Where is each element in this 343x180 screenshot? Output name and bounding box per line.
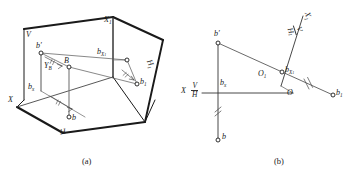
label-point-o-b: O: [287, 89, 293, 97]
label-axis-x-b: X: [181, 87, 186, 95]
point-b1-marker-b: [331, 93, 335, 97]
label-plane-h-a: H: [60, 128, 66, 136]
label-point-bx1-b: bX1: [285, 66, 294, 74]
label-axis-x1-a: X1: [104, 16, 111, 24]
point-b-marker-b: [216, 138, 220, 142]
h1-tick-marks: [123, 73, 128, 78]
h-arrow-head: [67, 107, 72, 111]
label-plane-v-a: V: [26, 31, 31, 39]
label-point-bx-b: bx: [220, 79, 226, 87]
yb-arrow-head: [58, 64, 63, 68]
inclined-tick-marks: [304, 77, 313, 89]
label-distance-yb-a: YB: [44, 62, 52, 70]
label-point-b1-a: b1: [140, 78, 147, 86]
label-point-b-prime-b: b′: [214, 30, 220, 38]
label-axis-x-a: X: [8, 96, 13, 104]
label-point-bx-a: bx: [28, 83, 34, 91]
point-b1-marker: [135, 82, 139, 86]
label-point-o1-b: O1: [258, 70, 266, 78]
label-fold-vh-b: V H: [191, 82, 198, 99]
h-plane-left-edge: [17, 107, 63, 133]
figure-container: V X1 X H H1 b′ B b b1 bx bX1 YB (a): [0, 0, 343, 180]
h-plane-bottom-edge: [63, 122, 145, 133]
point-B-marker: [67, 65, 71, 69]
bprime-to-bx1: [41, 53, 127, 60]
h1-plane-right-edge: [145, 40, 163, 122]
label-point-B-a: B: [64, 57, 69, 65]
h1-plane-top-edge: [113, 17, 163, 40]
point-bx1-marker-b: [280, 70, 284, 74]
label-point-b-prime-a: b′: [36, 42, 42, 50]
panel-b-drawing: [175, 0, 343, 180]
label-point-bx1-a: bX1: [97, 48, 106, 56]
point-b-marker: [67, 115, 71, 119]
label-point-b-a: b: [72, 114, 76, 122]
fold-vh-denominator: H: [191, 90, 198, 99]
v-plane-top-edge: [24, 17, 113, 29]
label-axis-x1-b: X1: [304, 12, 311, 20]
caption-panel-a: (a): [82, 156, 91, 166]
point-bx1-marker: [125, 58, 129, 62]
label-plane-h1-a: H1: [146, 60, 154, 68]
bprime-to-b1-line: [218, 43, 333, 95]
panel-b-points: [216, 41, 335, 142]
panel-a-drawing: [0, 0, 175, 180]
label-point-b-b: b: [222, 133, 226, 141]
bx1-to-b1: [127, 60, 137, 84]
point-b-prime-marker-b: [216, 41, 220, 45]
point-b-prime-marker: [39, 51, 43, 55]
caption-panel-b: (b): [274, 156, 284, 166]
label-point-b1-b: b1: [336, 89, 343, 97]
fold-vh-numerator: V: [191, 82, 198, 90]
